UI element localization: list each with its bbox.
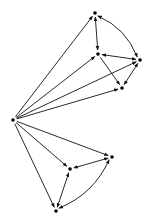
- node-b: [96, 52, 100, 56]
- edge-s-f: [16, 123, 67, 167]
- edge-b-c: [102, 55, 136, 60]
- edge-a-c: [98, 16, 137, 57]
- edges-layer: [15, 16, 138, 208]
- edge-s-e: [17, 121, 109, 155]
- node-a: [93, 11, 97, 15]
- node-g: [54, 209, 58, 213]
- edge-a-b: [95, 17, 97, 50]
- edge-e-f: [74, 158, 108, 168]
- node-f: [68, 167, 72, 171]
- node-e: [110, 155, 114, 159]
- directed-graph-diagram: [0, 0, 147, 222]
- edge-s-a: [15, 16, 92, 117]
- edge-e-g: [59, 160, 109, 208]
- node-c: [138, 58, 142, 62]
- edge-s-d: [17, 89, 118, 119]
- node-d: [120, 86, 124, 90]
- edge-f-g: [57, 173, 68, 207]
- edge-s-g: [15, 124, 55, 208]
- node-s: [11, 118, 15, 122]
